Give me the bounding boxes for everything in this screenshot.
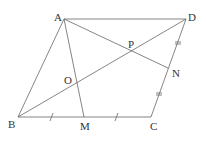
- label-O: O: [64, 74, 72, 86]
- label-C: C: [150, 120, 157, 132]
- label-A: A: [54, 11, 62, 23]
- segments: [18, 19, 186, 117]
- segment-CD: [151, 19, 186, 117]
- segment-BD: [18, 19, 186, 117]
- segment-AN: [64, 19, 168, 68]
- label-M: M: [80, 120, 90, 132]
- geometry-diagram: A D B C M N P O: [0, 0, 206, 142]
- label-N: N: [172, 67, 180, 79]
- segment-AM: [64, 19, 84, 117]
- label-D: D: [188, 11, 196, 23]
- segment-AB: [18, 19, 64, 117]
- label-B: B: [8, 118, 15, 130]
- label-P: P: [128, 38, 134, 50]
- point-labels: A D B C M N P O: [8, 11, 196, 132]
